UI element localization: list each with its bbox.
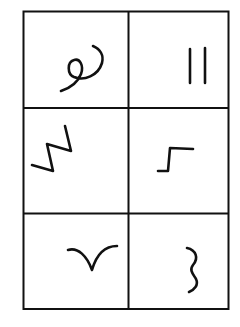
cell-r1c2 (190, 48, 205, 83)
wavy-three-icon (187, 248, 197, 292)
cell-r2c2 (158, 148, 193, 171)
double-bar-icon (190, 48, 205, 83)
loop-curl-icon (61, 46, 103, 91)
cell-r2c1 (32, 126, 71, 171)
zigzag-icon (32, 126, 71, 171)
symbol-grid (0, 0, 240, 327)
cell-r3c1 (68, 246, 117, 270)
step-icon (158, 148, 193, 171)
grid-lines (24, 12, 229, 310)
grid-outer-border (24, 12, 229, 310)
bird-v-icon (68, 246, 117, 270)
symbol-grid-card: Symbol grid (0, 0, 240, 327)
cell-r1c1 (61, 46, 103, 91)
cell-r3c2 (187, 248, 197, 292)
